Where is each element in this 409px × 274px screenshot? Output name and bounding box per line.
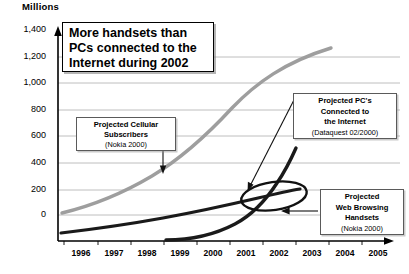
- annotation-pc-line-2: Connected to: [294, 107, 396, 118]
- annotation-pc-line-3: the Internet: [294, 117, 396, 128]
- annotation-web-browsing-handsets: Projected Web Browsing Handsets (Nokia 2…: [320, 189, 404, 235]
- annotation-web-line-3: Handsets: [321, 213, 403, 224]
- chart-container: Millions 1,400 1,200 1,000 800 600 400 2…: [0, 0, 409, 274]
- x-tick-label: 1998: [130, 248, 164, 258]
- x-tick-label: 2000: [196, 248, 230, 258]
- x-axis-arrowhead: [384, 237, 394, 245]
- y-tick-label: 1,200: [0, 51, 46, 61]
- annotation-cellular-source: (Nokia 2000): [77, 140, 175, 150]
- x-tick-label: 2005: [361, 248, 395, 258]
- callout-line-3: Internet during 2002: [69, 56, 207, 71]
- annotation-cellular-line-2: Subscribers: [77, 130, 175, 140]
- y-tick-label: 800: [0, 104, 46, 114]
- annotation-pcs-connected: Projected PC's Connected to the Internet…: [293, 93, 397, 139]
- y-tick-label: 400: [0, 157, 46, 167]
- x-tick-label: 1997: [97, 248, 131, 258]
- y-tick-label: 1,000: [0, 77, 46, 87]
- annotation-cellular-line-1: Projected Cellular: [77, 120, 175, 130]
- annotation-web-line-1: Projected: [321, 192, 403, 203]
- annotation-cellular-subscribers: Projected Cellular Subscribers (Nokia 20…: [76, 117, 176, 151]
- x-tick-label: 2002: [262, 248, 296, 258]
- y-axis-title: Millions: [22, 1, 59, 12]
- callout-line-1: More handsets than: [69, 26, 207, 41]
- y-tick-label: 600: [0, 130, 46, 140]
- annotation-pc-line-1: Projected PC's: [294, 96, 396, 107]
- x-tick-label: 2003: [295, 248, 329, 258]
- annotation-web-line-2: Web Browsing: [321, 203, 403, 214]
- x-tick-label: 2001: [229, 248, 263, 258]
- annotation-web-source: (Nokia 2000): [321, 224, 403, 235]
- x-tick-label: 1999: [163, 248, 197, 258]
- y-tick-label: 0: [0, 209, 46, 219]
- y-tick-label: 200: [0, 184, 46, 194]
- y-tick-label: 1,400: [0, 24, 46, 34]
- x-tick-label: 1996: [64, 248, 98, 258]
- x-tick-label: 2004: [328, 248, 362, 258]
- crossover-callout-box: More handsets than PCs connected to the …: [62, 22, 214, 72]
- callout-line-2: PCs connected to the: [69, 41, 207, 56]
- y-axis-arrowhead: [54, 26, 62, 36]
- annotation-pc-source: (Dataquest 02/2000): [294, 128, 396, 139]
